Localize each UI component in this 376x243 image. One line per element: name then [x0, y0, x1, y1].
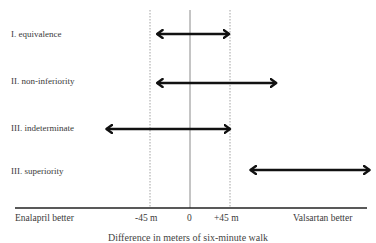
row-label-indeterminate: III. indeterminate	[11, 123, 74, 133]
axis-left-label: Enalapril better	[15, 213, 74, 223]
row-label-non-inferiority: II. non-inferiority	[11, 76, 74, 86]
tick-label-minus-45: -45 m	[135, 213, 157, 223]
axis-caption: Difference in meters of six-minute walk	[0, 232, 376, 243]
tick-label-plus-45: +45 m	[214, 213, 239, 223]
row-label-superiority: III. superiority	[11, 166, 63, 176]
tick-label-zero: 0	[187, 213, 192, 223]
axis-right-label: Valsartan better	[293, 213, 352, 223]
row-label-equivalence: I. equivalence	[11, 29, 61, 39]
